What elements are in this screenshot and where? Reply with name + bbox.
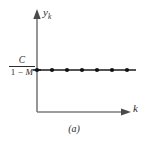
fraction-denominator-prefix: 1 −: [11, 67, 26, 77]
data-point: [80, 68, 84, 72]
y-axis-arrowhead: [33, 9, 40, 19]
y-axis-label-subscript: k: [48, 12, 51, 21]
data-point: [95, 68, 99, 72]
data-point: [125, 68, 129, 72]
fraction-denominator: 1 − M: [8, 67, 36, 77]
data-point: [50, 68, 54, 72]
figure-container: yk k C 1 − M (a): [0, 0, 148, 142]
data-point: [65, 68, 69, 72]
x-axis-label: k: [133, 103, 138, 114]
fraction-denominator-variable: M: [26, 67, 34, 77]
y-axis-label: yk: [43, 7, 51, 20]
x-axis-arrowhead: [121, 108, 131, 115]
y-axis-tick-label: C 1 − M: [8, 56, 36, 77]
fraction-numerator: C: [8, 56, 36, 66]
figure-caption: (a): [0, 124, 148, 134]
data-point: [110, 68, 114, 72]
